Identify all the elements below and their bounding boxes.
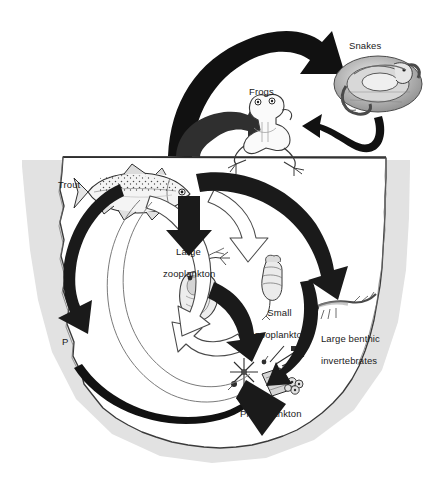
label-large-zooplankton: Large zooplankton [152,235,214,290]
label-small-zooplankton-line1: Small [267,307,291,318]
label-phytoplankton: Phytoplankton [240,408,302,419]
arrow-snakes-to-frogs [302,114,384,152]
label-large-benthic-invertebrates: Large benthic invertebrates [310,322,380,377]
label-phosphorus: P [62,336,68,347]
label-large-zooplankton-line1: Large [176,246,201,257]
label-frogs: Frogs [249,86,274,97]
label-small-zooplankton-line2: zooplankton [255,329,307,340]
diagram-canvas [0,0,436,481]
label-trout: Trout [58,179,80,190]
food-web-figure: Snakes Frogs Trout Large zooplankton Sma… [0,0,436,481]
label-large-zooplankton-line2: zooplankton [163,268,215,279]
snake-coiled-icon [334,56,422,114]
label-benthic-line2: invertebrates [321,355,377,366]
label-small-zooplankton: Small zooplankton [244,296,304,351]
label-benthic-line1: Large benthic [321,333,380,344]
label-snakes: Snakes [349,40,381,51]
